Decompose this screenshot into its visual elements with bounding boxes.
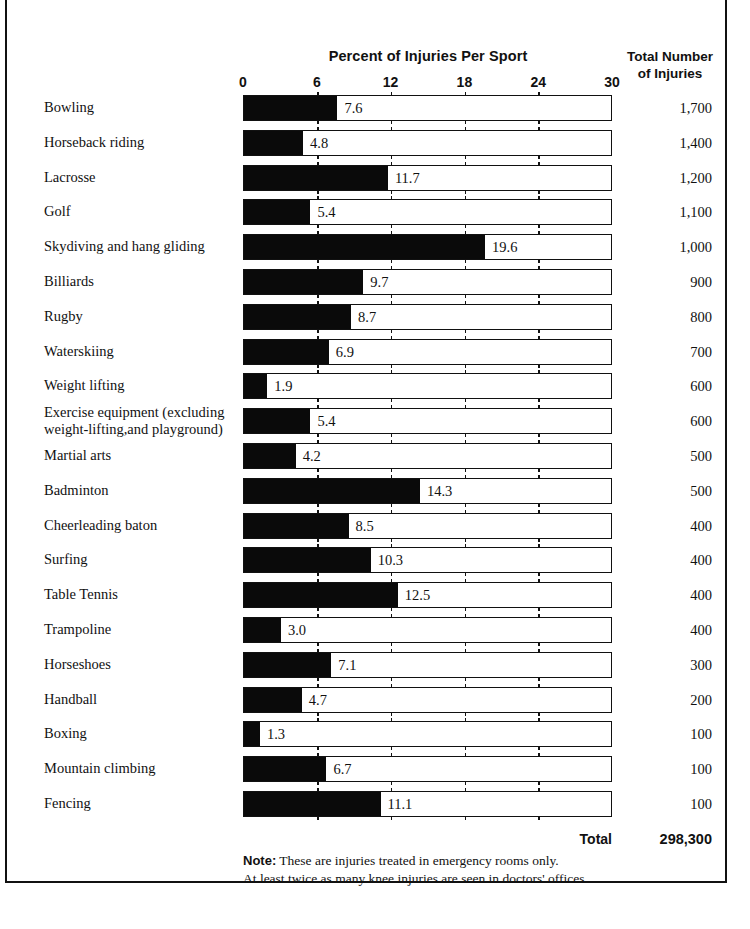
- total-injuries-value: 800: [618, 309, 712, 326]
- bar-value-label: 5.4: [310, 204, 335, 221]
- axis-tick-mark: [391, 364, 393, 368]
- axis-tick-mark: [391, 468, 393, 472]
- axis-tick-mark: [538, 677, 540, 681]
- bar-value-label: 10.3: [371, 552, 403, 569]
- bar-fill: [244, 548, 371, 572]
- total-injuries-value: 400: [618, 587, 712, 604]
- bar-fill: [244, 444, 296, 468]
- axis-tick-mark: [538, 440, 540, 444]
- axis-tick-mark: [538, 468, 540, 472]
- axis-tick-mark: [465, 538, 467, 542]
- bar-row: 12.5: [243, 582, 612, 608]
- axis-tick-mark: [317, 120, 319, 124]
- axis-tick-mark: [465, 649, 467, 653]
- bar-fill: [244, 479, 420, 503]
- axis-tick-mark: [317, 544, 319, 548]
- category-label: Waterskiing: [44, 343, 240, 360]
- category-label: Handball: [44, 691, 240, 708]
- footnote-prefix: Note:: [243, 853, 276, 868]
- bar-row: 6.7: [243, 756, 612, 782]
- x-axis-tick-30: 30: [604, 74, 620, 90]
- axis-tick-mark: [465, 718, 467, 722]
- bar-fill: [244, 131, 303, 155]
- axis-tick-mark: [465, 816, 467, 820]
- axis-tick-mark: [538, 718, 540, 722]
- axis-tick-mark: [317, 712, 319, 716]
- axis-tick-mark: [538, 155, 540, 159]
- category-label: Lacrosse: [44, 169, 240, 186]
- bar-chart-plot: 7.64.811.75.419.69.78.76.91.95.44.214.38…: [243, 95, 612, 828]
- footnote: Note: These are injuries treated in emer…: [243, 852, 693, 887]
- bar-fill: [244, 340, 329, 364]
- bar-fill: [244, 200, 310, 224]
- axis-tick-mark: [391, 329, 393, 333]
- bar-row: 9.7: [243, 269, 612, 295]
- axis-tick-mark: [391, 684, 393, 688]
- bar-row: 6.9: [243, 339, 612, 365]
- axis-tick-mark: [538, 816, 540, 820]
- category-label: Exercise equipment (excluding weight-lif…: [44, 404, 240, 438]
- total-injuries-value: 100: [618, 796, 712, 813]
- axis-tick-mark: [465, 190, 467, 194]
- bar-row: 11.7: [243, 165, 612, 191]
- axis-tick-mark: [465, 753, 467, 757]
- totals-header-line1: Total Number: [618, 48, 722, 65]
- axis-tick-mark: [538, 405, 540, 409]
- axis-tick-mark: [538, 753, 540, 757]
- category-label: Trampoline: [44, 621, 240, 638]
- bar-fill: [244, 374, 267, 398]
- bar-fill: [244, 653, 331, 677]
- bar-value-label: 4.7: [302, 692, 327, 709]
- total-injuries-value: 400: [618, 518, 712, 535]
- axis-tick-mark: [538, 614, 540, 618]
- axis-tick-mark: [538, 92, 540, 96]
- axis-tick-mark: [465, 788, 467, 792]
- category-label: Table Tennis: [44, 586, 240, 603]
- axis-tick-mark: [317, 614, 319, 618]
- axis-tick-mark: [465, 572, 467, 576]
- axis-tick-mark: [465, 405, 467, 409]
- axis-tick-mark: [391, 788, 393, 792]
- axis-tick-mark: [391, 753, 393, 757]
- category-label: Horseback riding: [44, 134, 240, 151]
- axis-tick-mark: [391, 196, 393, 200]
- axis-tick-mark: [317, 329, 319, 333]
- axis-tick-mark: [465, 398, 467, 402]
- category-label: Mountain climbing: [44, 760, 240, 777]
- axis-tick-mark: [538, 788, 540, 792]
- total-injuries-value: 300: [618, 657, 712, 674]
- axis-tick-mark: [391, 190, 393, 194]
- axis-tick-mark: [465, 746, 467, 750]
- bar-fill: [244, 722, 260, 746]
- bar-fill: [244, 166, 388, 190]
- bar-fill: [244, 514, 349, 538]
- category-label: Surfing: [44, 551, 240, 568]
- axis-tick-mark: [391, 614, 393, 618]
- x-axis-tick-0: 0: [239, 74, 247, 90]
- category-label: Rugby: [44, 308, 240, 325]
- axis-tick-mark: [317, 579, 319, 583]
- axis-tick-mark: [317, 224, 319, 228]
- axis-tick-mark: [391, 370, 393, 374]
- bar-fill: [244, 792, 381, 816]
- axis-tick-mark: [391, 475, 393, 479]
- bar-value-label: 6.9: [329, 344, 354, 361]
- axis-tick-mark: [317, 684, 319, 688]
- axis-tick-mark: [465, 162, 467, 166]
- axis-tick-mark: [391, 649, 393, 653]
- total-injuries-value: 600: [618, 378, 712, 395]
- axis-tick-mark: [317, 510, 319, 514]
- axis-tick-mark: [465, 642, 467, 646]
- x-axis-tick-6: 6: [313, 74, 321, 90]
- bar-fill: [244, 96, 337, 120]
- axis-tick-mark: [391, 579, 393, 583]
- total-injuries-value: 400: [618, 552, 712, 569]
- axis-tick-mark: [317, 572, 319, 576]
- axis-tick-mark: [317, 162, 319, 166]
- axis-tick-mark: [538, 538, 540, 542]
- axis-tick-mark: [538, 301, 540, 305]
- axis-tick-mark: [391, 398, 393, 402]
- axis-tick-mark: [538, 370, 540, 374]
- axis-tick-mark: [538, 712, 540, 716]
- category-label: Horseshoes: [44, 656, 240, 673]
